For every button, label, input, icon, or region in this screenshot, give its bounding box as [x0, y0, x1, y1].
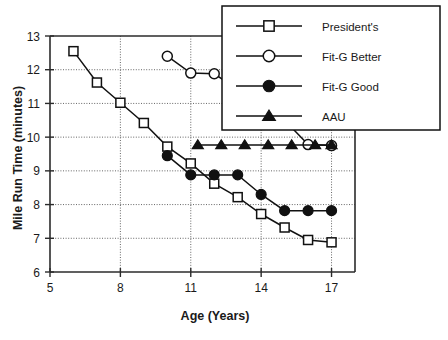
legend-label: President's — [322, 21, 379, 33]
y-tick-label: 6 — [33, 266, 40, 280]
marker-open-square — [116, 98, 125, 107]
marker-open-square — [264, 21, 274, 31]
marker-open-square — [69, 47, 78, 56]
legend-label: AAU — [322, 111, 346, 123]
x-tick-label: 5 — [47, 281, 54, 295]
x-tick-label: 17 — [325, 281, 339, 295]
marker-open-circle — [263, 50, 275, 62]
marker-filled-circle — [186, 170, 196, 180]
x-tick-label: 14 — [254, 281, 268, 295]
x-tick-label: 11 — [185, 281, 198, 295]
marker-open-circle — [209, 69, 219, 79]
marker-filled-circle — [303, 206, 313, 216]
y-tick-label: 9 — [33, 164, 40, 178]
x-tick-label: 8 — [117, 281, 124, 295]
y-tick-label: 8 — [33, 198, 40, 212]
marker-filled-circle — [327, 206, 337, 216]
marker-filled-circle — [280, 206, 290, 216]
chart-figure: 678910111213 58111417 Mile Run Time (min… — [0, 0, 448, 340]
marker-open-square — [186, 159, 195, 168]
legend-label: Fit-G Better — [322, 51, 382, 63]
marker-open-square — [233, 193, 242, 202]
marker-filled-circle — [209, 170, 219, 180]
y-axis-title: Mile Run Time (minutes) — [11, 86, 25, 230]
y-tick-label: 12 — [27, 63, 41, 77]
mile-run-time-line-chart: 678910111213 58111417 Mile Run Time (min… — [0, 0, 448, 340]
y-tick-label: 10 — [27, 131, 41, 145]
y-tick-label: 11 — [28, 97, 41, 111]
marker-open-square — [257, 210, 266, 219]
marker-open-square — [139, 118, 148, 127]
marker-filled-circle — [162, 151, 172, 161]
y-tick-label: 7 — [33, 232, 40, 246]
marker-filled-circle — [256, 189, 266, 199]
chart-legend: President'sFit-G BetterFit-G GoodAAU — [222, 6, 440, 130]
marker-open-circle — [186, 68, 196, 78]
marker-filled-circle — [233, 170, 243, 180]
marker-open-square — [163, 142, 172, 151]
marker-open-square — [92, 78, 101, 87]
marker-filled-circle — [263, 80, 275, 92]
y-tick-label: 13 — [27, 30, 41, 44]
marker-open-circle — [162, 51, 172, 61]
marker-open-square — [327, 238, 336, 247]
marker-open-square — [210, 179, 219, 188]
legend-label: Fit-G Good — [322, 81, 379, 93]
marker-open-square — [304, 235, 313, 244]
marker-open-square — [280, 223, 289, 232]
x-axis-title: Age (Years) — [181, 309, 250, 323]
